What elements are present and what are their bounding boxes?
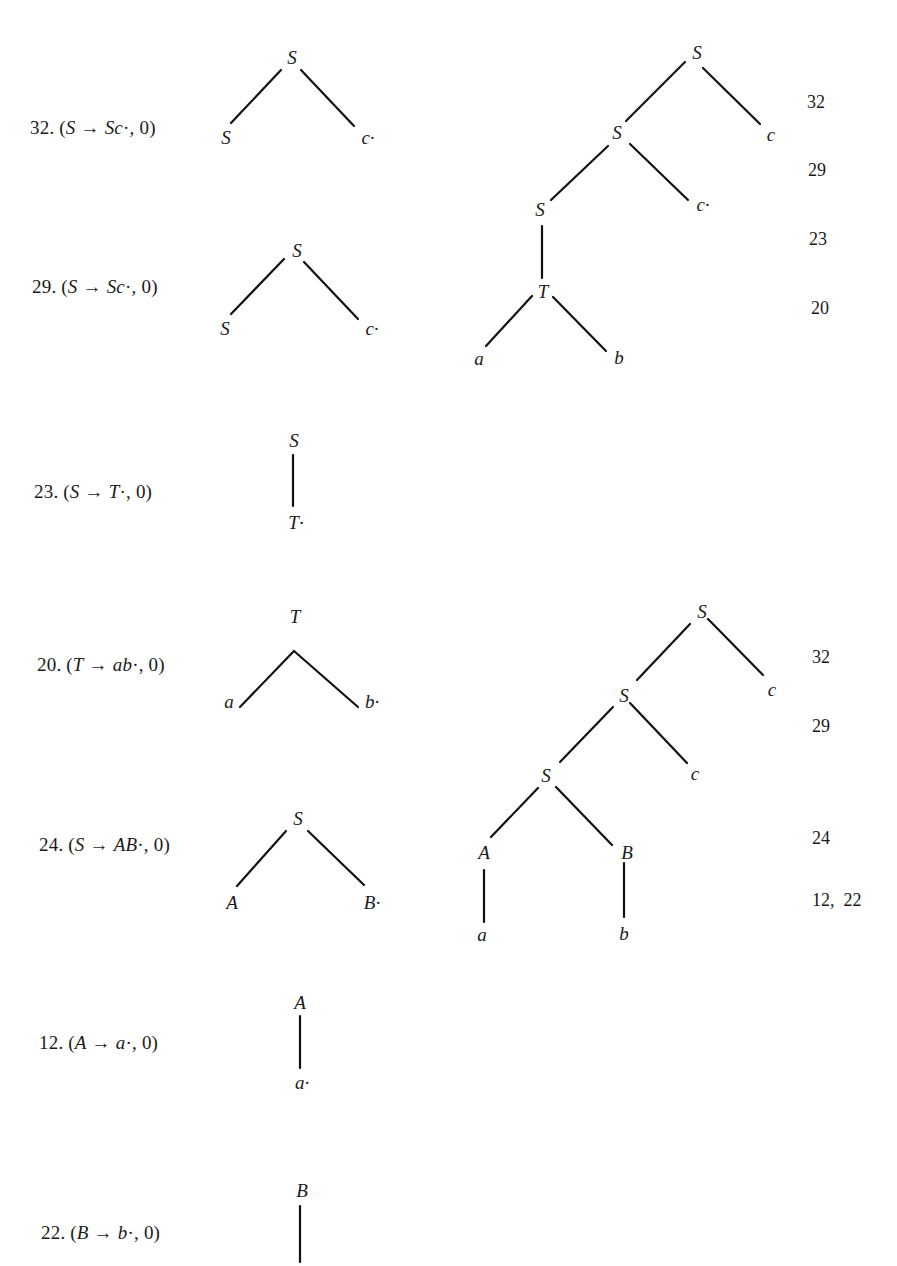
- bigtree2-A: A: [478, 842, 490, 864]
- tree-edges: [0, 0, 897, 1266]
- tree23-root: S: [289, 430, 299, 452]
- tree32-root: S: [287, 47, 297, 69]
- bigtree1-b: b: [614, 347, 624, 369]
- tree32-right: c·: [361, 127, 374, 149]
- bigtree2-c1: c: [768, 679, 776, 701]
- bigtree2-step-24: 24: [812, 828, 830, 849]
- earley-item-12: 12. (A → a·, 0): [39, 1032, 158, 1054]
- tree29-left: S: [220, 318, 230, 340]
- tree24-root: S: [293, 808, 303, 830]
- bigtree1-step-23: 23: [809, 229, 827, 250]
- earley-item-24: 24. (S → AB·, 0): [39, 834, 170, 856]
- earley-item-23: 23. (S → T·, 0): [34, 481, 152, 503]
- bigtree2-B: B: [621, 842, 633, 864]
- tree12-child: a·: [295, 1072, 309, 1094]
- bigtree1-t: T: [538, 281, 549, 303]
- earley-item-29: 29. (S → Sc·, 0): [32, 276, 158, 298]
- bigtree1-a: a: [474, 348, 484, 370]
- bigtree1-c1: c: [767, 124, 775, 146]
- tree20-left: a: [224, 691, 234, 713]
- bigtree1-s2: S: [612, 122, 622, 144]
- bigtree1-step-32: 32: [807, 92, 825, 113]
- bigtree2-step-29: 29: [812, 716, 830, 737]
- bigtree2-s2: S: [619, 685, 629, 707]
- bigtree2-s1: S: [697, 601, 707, 623]
- earley-item-20: 20. (T → ab·, 0): [37, 654, 165, 676]
- bigtree1-step-20: 20: [811, 298, 829, 319]
- bigtree1-s1: S: [692, 42, 702, 64]
- bigtree2-step-32: 32: [812, 647, 830, 668]
- bigtree1-s3: S: [535, 199, 545, 221]
- bigtree2-a: a: [477, 924, 487, 946]
- bigtree2-step-12-22: 12, 22: [812, 890, 862, 911]
- bigtree1-step-29: 29: [808, 160, 826, 181]
- tree24-right: B·: [364, 892, 380, 914]
- bigtree2-s3: S: [541, 765, 551, 787]
- bigtree2-c2: c: [691, 763, 699, 785]
- tree29-right: c·: [365, 318, 378, 340]
- earley-item-22: 22. (B → b·, 0): [41, 1222, 160, 1244]
- tree23-child: T·: [288, 512, 303, 534]
- tree20-root: T: [290, 606, 301, 628]
- tree12-root: A: [294, 992, 306, 1014]
- bigtree1-c2: c·: [696, 194, 709, 216]
- earley-item-32: 32. (S → Sc·, 0): [30, 117, 156, 139]
- tree22-root: B: [296, 1180, 308, 1202]
- tree24-left: A: [226, 892, 238, 914]
- bigtree2-b: b: [619, 923, 629, 945]
- tree29-root: S: [292, 240, 302, 262]
- tree32-left: S: [221, 127, 231, 149]
- tree20-right: b·: [365, 691, 379, 713]
